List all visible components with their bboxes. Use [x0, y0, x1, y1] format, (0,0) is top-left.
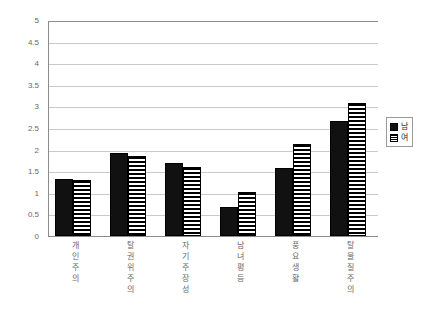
bar: [110, 153, 128, 236]
bar-group: [159, 21, 214, 236]
y-tick-label: 4.5: [28, 39, 39, 47]
y-axis-tick-labels: 5 4.5 4 3.5 3 2.5 2 1.5 1 0.5 0: [0, 21, 44, 237]
hatched-swatch-icon: [390, 134, 398, 142]
chart-legend: 남 여: [386, 117, 413, 147]
y-tick-label: 0.5: [28, 211, 39, 219]
x-axis-category-label: 남녀평등: [214, 240, 268, 284]
bar: [183, 167, 201, 236]
legend-label: 여: [401, 133, 408, 142]
x-axis-category-labels: 개인주의탈권위주의자기주장성남녀평등풍요생활탈물질주의: [48, 240, 378, 320]
x-axis-category-label: 탈권위주의: [104, 240, 158, 295]
bar: [275, 168, 293, 236]
solid-black-swatch-icon: [390, 123, 398, 131]
bar-group: [104, 21, 159, 236]
x-axis-category-label: 자기주장성: [159, 240, 213, 295]
bar: [165, 163, 183, 236]
bar-group: [214, 21, 269, 236]
x-axis-category-label: 개인주의: [49, 240, 103, 284]
y-tick-label: 0: [35, 233, 39, 241]
bar-chart: 5 4.5 4 3.5 3 2.5 2 1.5 1 0.5 0 개인주의탈권위주…: [0, 0, 438, 323]
bar-group: [324, 21, 379, 236]
bar: [220, 207, 238, 236]
bar-group: [49, 21, 104, 236]
bar: [128, 156, 146, 236]
legend-item-male: 남: [390, 121, 408, 132]
bar: [293, 144, 311, 236]
y-tick-label: 2: [35, 147, 39, 155]
bar: [73, 180, 91, 236]
y-tick-label: 2.5: [28, 125, 39, 133]
y-tick-label: 1.5: [28, 168, 39, 176]
legend-label: 남: [401, 122, 408, 131]
x-axis-category-label: 탈물질주의: [324, 240, 378, 295]
bar: [330, 121, 348, 236]
x-axis-category-label: 풍요생활: [269, 240, 323, 284]
bar: [238, 192, 256, 236]
bar: [348, 103, 366, 236]
plot-area: [48, 21, 378, 237]
y-tick-label: 3: [35, 103, 39, 111]
y-tick-label: 3.5: [28, 82, 39, 90]
y-tick-label: 4: [35, 60, 39, 68]
y-tick-label: 1: [35, 190, 39, 198]
y-tick-label: 5: [35, 17, 39, 25]
bar: [55, 179, 73, 236]
legend-item-female: 여: [390, 132, 408, 143]
bar-group: [269, 21, 324, 236]
bars-layer: [49, 21, 378, 236]
